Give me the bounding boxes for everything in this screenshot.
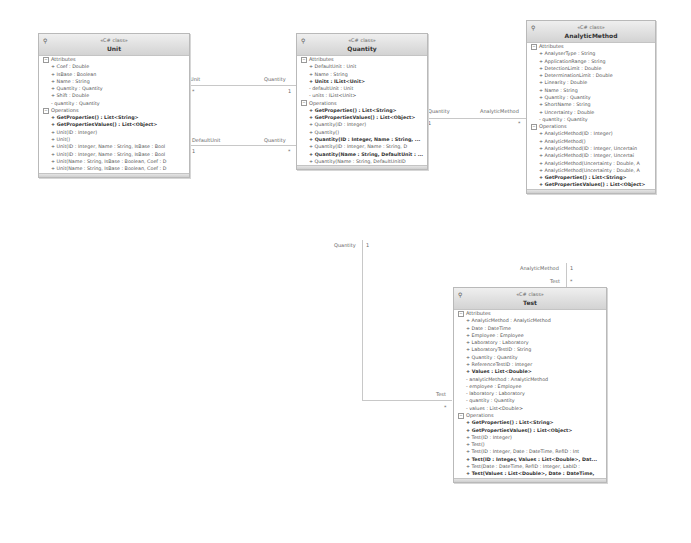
member-item[interactable]: + Quantity : Quantity: [454, 354, 606, 361]
member-item[interactable]: + Unit(ID : Integer): [39, 129, 189, 136]
class-header[interactable]: ⚲ «C# class» AnalyticMethod: [527, 21, 655, 43]
member-item[interactable]: - values : List<Double>: [454, 405, 606, 412]
attributes-list: + DefaultUnit : Unit+ Name : String+ Uni…: [297, 63, 427, 99]
member-item[interactable]: + GetPropertiesValues() : List<Object>: [39, 121, 189, 128]
class-header[interactable]: ⚲ «C# class» Unit: [39, 34, 189, 56]
member-item[interactable]: + DetectionLimit : Double: [527, 65, 655, 72]
member-item[interactable]: + Test(Values : List<Double>, Date : Dat…: [454, 470, 606, 477]
collapse-icon[interactable]: −: [43, 57, 49, 63]
member-item[interactable]: + Name : String: [297, 71, 427, 78]
attributes-list: + AnalyticMethod : AnalyticMethod+ Date …: [454, 317, 606, 412]
member-item[interactable]: + GetPropertiesValues() : List<Object>: [527, 181, 655, 188]
operations-section[interactable]: −Operations: [297, 100, 427, 107]
member-item[interactable]: + Unit(): [39, 136, 189, 143]
member-item[interactable]: + ApplicationRange : String: [527, 58, 655, 65]
member-item[interactable]: - quantity : Quantity: [454, 397, 606, 404]
class-header[interactable]: ⚲ «C# class» Test: [454, 288, 606, 310]
class-analyticmethod[interactable]: ⚲ «C# class» AnalyticMethod −Attributes …: [526, 20, 656, 194]
member-item[interactable]: + Test(): [454, 441, 606, 448]
member-item[interactable]: + Coef : Double: [39, 63, 189, 70]
member-item[interactable]: + DeterminationLimit : Double: [527, 72, 655, 79]
collapse-icon[interactable]: −: [531, 124, 537, 130]
pin-icon[interactable]: ⚲: [301, 37, 305, 44]
class-quantity[interactable]: ⚲ «C# class» Quantity −Attributes + Defa…: [296, 33, 428, 170]
member-item[interactable]: + IsBase : Boolean: [39, 71, 189, 78]
member-item[interactable]: + Date : DateTime: [454, 325, 606, 332]
collapse-icon[interactable]: −: [531, 44, 537, 50]
member-item[interactable]: + AnalyticMethod(ID : Integer, Uncertain: [527, 145, 655, 152]
member-item[interactable]: + Shift : Double: [39, 92, 189, 99]
member-item[interactable]: + AnalyticMethod(ID : Integer): [527, 130, 655, 137]
member-item[interactable]: - laboratory : Laboratory: [454, 390, 606, 397]
member-item[interactable]: + Quantity(): [297, 129, 427, 136]
member-item[interactable]: - units : IList<Unit>: [297, 92, 427, 99]
member-item[interactable]: + Linearity : Double: [527, 79, 655, 86]
operations-section[interactable]: −Operations: [527, 123, 655, 130]
member-item[interactable]: + AnalyticMethod(Uncertainty : Double, A: [527, 167, 655, 174]
pin-icon[interactable]: ⚲: [43, 37, 47, 44]
member-item[interactable]: - defaultUnit : Unit: [297, 85, 427, 92]
member-item[interactable]: + Test(ID : Integer, Date : DateTime, Re…: [454, 448, 606, 455]
member-item[interactable]: + Quantity(ID : Integer, Name : String, …: [297, 143, 427, 150]
class-test[interactable]: ⚲ «C# class» Test −Attributes + Analytic…: [453, 287, 607, 483]
member-item[interactable]: + Laboratory : Laboratory: [454, 339, 606, 346]
member-item[interactable]: + Quantity : Quantity: [39, 85, 189, 92]
member-item[interactable]: + Units : IList<Unit>: [297, 78, 427, 85]
member-item[interactable]: + GetPropertiesValues() : List<Object>: [297, 114, 427, 121]
member-item[interactable]: + ReferenceTestID : Integer: [454, 361, 606, 368]
operations-section[interactable]: −Operations: [39, 107, 189, 114]
member-item[interactable]: + Employee : Employee: [454, 332, 606, 339]
collapse-icon[interactable]: −: [458, 413, 464, 419]
collapse-icon[interactable]: −: [43, 108, 49, 114]
member-item[interactable]: - quantity : Quantity: [39, 100, 189, 107]
member-item[interactable]: + AnalyticMethod(): [527, 138, 655, 145]
attributes-section[interactable]: −Attributes: [527, 43, 655, 50]
member-item[interactable]: + AnalyserType : String: [527, 50, 655, 57]
member-item[interactable]: + Unit(Name : String, IsBase : Boolean, …: [39, 165, 189, 172]
member-item[interactable]: + LaboratoryTestID : String: [454, 346, 606, 353]
member-item[interactable]: + GetProperties() : List<String>: [39, 114, 189, 121]
member-item[interactable]: + Uncertainty : Double: [527, 109, 655, 116]
class-unit[interactable]: ⚲ «C# class» Unit −Attributes + Coef : D…: [38, 33, 190, 178]
member-item[interactable]: + Test(ID : Integer): [454, 434, 606, 441]
pin-icon[interactable]: ⚲: [458, 291, 462, 298]
member-item[interactable]: + AnalyticMethod(ID : Integer, Uncertai: [527, 152, 655, 159]
member-item[interactable]: + Unit(ID : Integer, Name : String, IsBa…: [39, 151, 189, 158]
member-item[interactable]: + AnalyticMethod(Uncertainty : Double, A: [527, 160, 655, 167]
member-item[interactable]: + Quantity(ID : Integer): [297, 121, 427, 128]
member-item[interactable]: - quantity : Quantity: [527, 116, 655, 123]
member-item[interactable]: + AnalyticMethod : AnalyticMethod: [454, 317, 606, 324]
member-item[interactable]: + Quantity(Name : String, DefaultUnit : …: [297, 151, 427, 158]
collapse-icon[interactable]: −: [458, 311, 464, 317]
assoc-label: Quantity: [264, 76, 286, 82]
member-item[interactable]: + Values : List<Double>: [454, 368, 606, 375]
pin-icon[interactable]: ⚲: [531, 24, 535, 31]
member-item[interactable]: + GetProperties() : List<String>: [454, 419, 606, 426]
member-item[interactable]: + GetPropertiesValues() : List<Object>: [454, 427, 606, 434]
member-item[interactable]: + DefaultUnit : Unit: [297, 63, 427, 70]
stereotype: «C# class»: [297, 34, 427, 44]
member-item[interactable]: + Test(Date : DateTime, RefID : Integer,…: [454, 463, 606, 470]
class-header[interactable]: ⚲ «C# class» Quantity: [297, 34, 427, 56]
member-item[interactable]: + Quantity : Quantity: [527, 94, 655, 101]
assoc-label: AnalyticMethod: [520, 265, 559, 271]
member-item[interactable]: + Quantity(ID : Integer, Name : String, …: [297, 136, 427, 143]
operations-section[interactable]: −Operations: [454, 412, 606, 419]
member-item[interactable]: + Name : String: [39, 78, 189, 85]
member-item[interactable]: + Unit(ID : Integer, Name : String, IsBa…: [39, 143, 189, 150]
member-item[interactable]: + Name : String: [527, 87, 655, 94]
member-item[interactable]: + Quantity(Name : String, DefaultUnitID: [297, 158, 427, 165]
member-item[interactable]: + Unit(Name : String, IsBase : Boolean, …: [39, 158, 189, 165]
member-item[interactable]: - analyticMethod : AnalyticMethod: [454, 376, 606, 383]
member-item[interactable]: + GetProperties() : List<String>: [527, 174, 655, 181]
attributes-section[interactable]: −Attributes: [297, 56, 427, 63]
member-item[interactable]: + Test(ID : Integer, Values : List<Doubl…: [454, 456, 606, 463]
collapse-icon[interactable]: −: [301, 100, 307, 106]
class-footer: [454, 478, 606, 482]
attributes-section[interactable]: −Attributes: [454, 310, 606, 317]
collapse-icon[interactable]: −: [301, 57, 307, 63]
member-item[interactable]: - employee : Employee: [454, 383, 606, 390]
attributes-section[interactable]: −Attributes: [39, 56, 189, 63]
member-item[interactable]: + ShortName : String: [527, 101, 655, 108]
member-item[interactable]: + GetProperties() : List<String>: [297, 107, 427, 114]
